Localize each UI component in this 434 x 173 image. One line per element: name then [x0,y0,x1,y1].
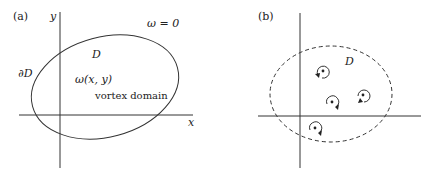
boundary-label: ∂D [18,67,33,80]
domain-label: D [91,48,101,61]
rotation-arrow-icon [315,73,320,78]
figure: (a) y x ω = 0 D ∂D ω(x, y) vortex domain… [0,0,434,173]
y-axis-label: y [49,10,57,23]
rotation-arrow-icon [335,104,339,110]
panel-a-label: (a) [13,10,28,23]
vorticity-label: ω(x, y) [75,73,112,86]
point-vortex-2 [327,96,339,110]
x-axis-label: x [188,116,195,129]
rotation-arrow-icon [318,130,322,136]
panel-b-label: (b) [258,10,274,23]
panel-b: (b) D [258,10,421,168]
domain-label: D [344,55,354,68]
point-vortex-1 [315,66,329,78]
rotation-arrow-icon [358,98,363,103]
panel-a: (a) y x ω = 0 D ∂D ω(x, y) vortex domain [13,10,195,168]
vortex-domain-boundary [20,19,191,154]
point-vortex-3 [358,90,370,103]
omega-zero-label: ω = 0 [147,17,179,30]
domain-boundary-dashed [270,46,392,142]
point-vortex-4 [310,122,322,136]
vortex-domain-caption: vortex domain [94,90,168,101]
